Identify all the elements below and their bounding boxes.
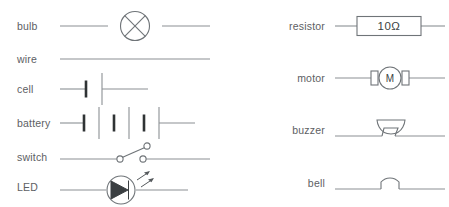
symbol-label-motor: motor	[225, 73, 325, 84]
symbol-label-wire: wire	[17, 54, 37, 65]
symbol-label-battery: battery	[17, 118, 51, 129]
bell-symbol	[335, 163, 445, 203]
symbol-label-cell: cell	[17, 84, 34, 95]
led-symbol	[58, 167, 215, 207]
symbol-label-bulb: bulb	[17, 21, 38, 32]
led-emission-arrows	[137, 171, 154, 187]
circuit-symbols-diagram: bulb wire cell	[0, 0, 449, 207]
resistor-symbol: 10Ω	[335, 6, 445, 46]
symbol-row-motor: motor M	[225, 58, 449, 98]
symbol-column-left: bulb wire cell	[0, 0, 225, 207]
symbol-row-led: LED	[0, 167, 225, 207]
resistor-value: 10Ω	[378, 20, 401, 32]
motor-symbol: M	[335, 58, 445, 98]
symbol-label-bell: bell	[225, 178, 325, 189]
symbol-row-buzzer: buzzer	[225, 110, 449, 150]
symbol-row-bell: bell	[225, 163, 449, 203]
symbol-label-buzzer: buzzer	[225, 125, 325, 136]
symbol-column-right: resistor 10Ω motor M	[225, 0, 449, 207]
symbol-label-switch: switch	[17, 152, 47, 163]
symbol-label-resistor: resistor	[225, 21, 325, 32]
symbol-label-led: LED	[17, 182, 38, 193]
motor-value: M	[386, 73, 394, 84]
symbol-row-resistor: resistor 10Ω	[225, 6, 449, 46]
buzzer-symbol	[335, 110, 445, 150]
